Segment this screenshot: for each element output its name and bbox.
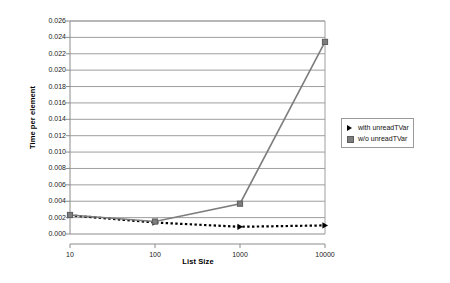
legend-label: w/o unreadTVar (358, 135, 407, 142)
square-marker-icon (345, 134, 355, 143)
x-axis-title: List Size (70, 257, 326, 266)
legend-label: with unreadTVar (358, 124, 409, 131)
y-axis-title: Time per element (28, 38, 37, 198)
chart-container: 0.0000.0020.0040.0060.0080.0100.0120.014… (0, 0, 450, 283)
legend-item-wo-unreadtvar: w/o unreadTVar (345, 133, 409, 144)
triangle-marker-icon (345, 123, 355, 132)
legend-item-with-unreadtvar: with unreadTVar (345, 122, 409, 133)
chart-legend: with unreadTVar w/o unreadTVar (341, 118, 414, 148)
